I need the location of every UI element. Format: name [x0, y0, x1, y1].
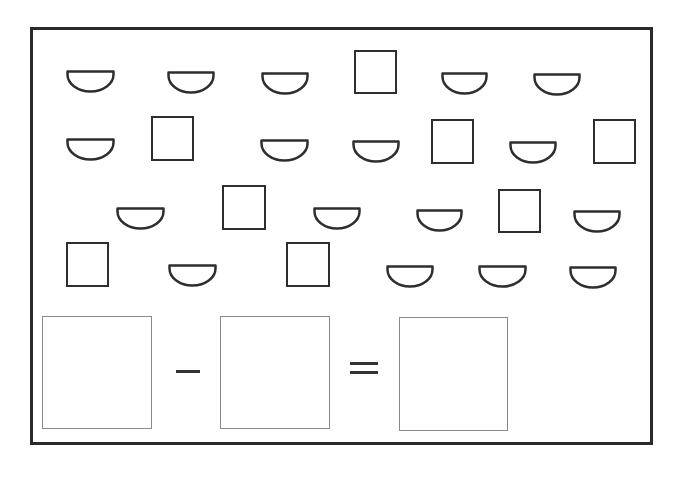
semicircle-shape [261, 72, 309, 95]
minus-sign [176, 370, 200, 373]
equals-sign [350, 362, 378, 375]
square-shape [498, 189, 541, 233]
semicircle-shape [509, 141, 557, 164]
square-shape [151, 116, 194, 161]
semicircle-shape [386, 265, 434, 288]
semicircle-shape [352, 140, 400, 163]
semicircle-shape [478, 265, 527, 288]
square-shape [431, 119, 474, 164]
semicircle-shape [66, 138, 115, 161]
answer-box-result[interactable] [399, 317, 508, 431]
semicircle-shape [260, 139, 309, 162]
semicircle-shape [416, 209, 463, 232]
semicircle-shape [167, 71, 215, 94]
semicircle-shape [441, 72, 488, 95]
semicircle-shape [573, 210, 621, 233]
semicircle-shape [66, 70, 115, 93]
semicircle-shape [313, 207, 361, 230]
answer-box-subtrahend[interactable] [220, 316, 330, 429]
semicircle-shape [533, 73, 581, 96]
square-shape [593, 119, 636, 164]
semicircle-shape [116, 207, 165, 230]
square-shape [354, 50, 397, 94]
answer-box-minuend[interactable] [42, 316, 152, 429]
semicircle-shape [168, 264, 217, 287]
semicircle-shape [569, 266, 617, 289]
square-shape [66, 242, 109, 287]
square-shape [222, 185, 266, 230]
square-shape [286, 242, 330, 287]
